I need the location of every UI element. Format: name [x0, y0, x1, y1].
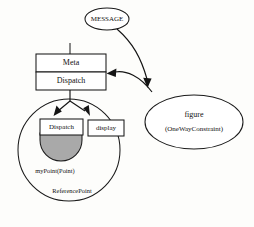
- inner-dispatch-label: Dispatch: [49, 123, 74, 131]
- meta-label: Meta: [63, 58, 80, 67]
- node-figure[interactable]: figure (OneWayConstraint): [145, 95, 243, 149]
- diagram-svg: MESSAGE Meta Dispatch ReferencePoint: [0, 0, 254, 227]
- node-message[interactable]: MESSAGE: [85, 8, 129, 30]
- mypoint-half-disc-shape: [40, 133, 82, 161]
- diagram-canvas: MESSAGE Meta Dispatch ReferencePoint: [0, 0, 254, 227]
- dispatch-label: Dispatch: [57, 76, 85, 85]
- mypoint-label: myPoint(Point): [35, 167, 74, 175]
- dispatch-to-inner-dispatch-arrowhead: [54, 106, 62, 117]
- node-mypoint[interactable]: myPoint(Point): [35, 133, 82, 175]
- dispatch-to-display-path: [70, 101, 85, 111]
- connector-dispatch-branches: [54, 90, 91, 116]
- figure-ellipse-shape: [145, 95, 243, 149]
- display-label: display: [96, 124, 117, 132]
- node-meta-dispatch-stack[interactable]: Meta Dispatch: [36, 54, 106, 90]
- node-inner-dispatch[interactable]: Dispatch: [40, 119, 83, 135]
- message-label: MESSAGE: [91, 15, 124, 23]
- figure-to-dispatch-arrowhead: [107, 69, 117, 78]
- reference-point-label: ReferencePoint: [52, 187, 92, 194]
- connector-message-to-figure: [117, 29, 152, 88]
- figure-label-line-2: (OneWayConstraint): [165, 125, 224, 133]
- figure-label-line-1: figure: [184, 110, 204, 119]
- node-display[interactable]: display: [88, 120, 124, 136]
